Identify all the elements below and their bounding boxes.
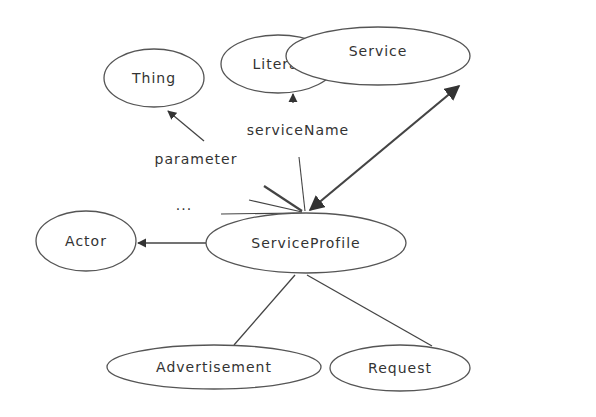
edge-service: [310, 86, 459, 210]
node-label: Request: [368, 360, 432, 376]
edge-parameter-arrow: [168, 111, 204, 141]
edge-label-servicename: serviceName: [247, 122, 349, 138]
edge-request: [307, 275, 432, 346]
node-label: Service: [349, 43, 408, 59]
node-thing[interactable]: Thing: [104, 49, 204, 107]
edge-label-parameter: parameter: [155, 151, 238, 167]
ontology-diagram: parameter serviceName ... Thing Literal …: [0, 0, 596, 417]
ellipsis-label: ...: [176, 197, 192, 213]
edge-servicename-line: [299, 157, 305, 211]
node-serviceprofile[interactable]: ServiceProfile: [206, 213, 406, 273]
node-service[interactable]: Service: [286, 27, 470, 85]
node-label: Advertisement: [156, 359, 272, 375]
node-advertisement[interactable]: Advertisement: [107, 345, 321, 389]
node-label: Actor: [65, 233, 107, 249]
node-label: ServiceProfile: [251, 235, 360, 251]
node-actor[interactable]: Actor: [36, 211, 136, 271]
node-label: Thing: [131, 70, 176, 86]
edge-advertisement: [234, 275, 295, 345]
node-request[interactable]: Request: [330, 345, 470, 391]
